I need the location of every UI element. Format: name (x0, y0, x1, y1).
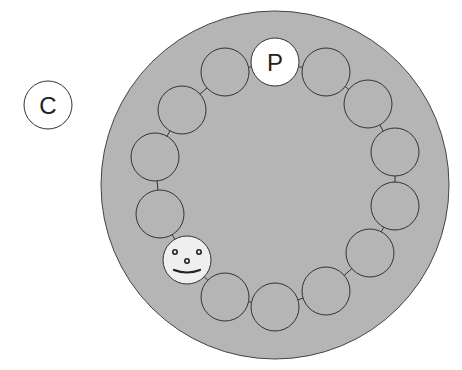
seat-circle (302, 48, 350, 96)
seat-circle (346, 229, 394, 277)
seat-circle (302, 267, 350, 315)
seat-circle (163, 236, 211, 284)
seat-empty (371, 128, 419, 176)
seat-smiley (163, 236, 211, 284)
seat-circle (344, 80, 392, 128)
seat-empty (344, 80, 392, 128)
seat-circle (158, 86, 206, 134)
seat-empty (346, 229, 394, 277)
seat-circle (371, 182, 419, 230)
seating-diagram: C P (0, 0, 462, 370)
outside-node: C (24, 81, 72, 129)
seat-empty (201, 48, 249, 96)
seat-empty (302, 267, 350, 315)
seat-empty (371, 182, 419, 230)
seat-empty (251, 283, 299, 331)
seat-p: P (251, 38, 299, 86)
seat-circle (201, 273, 249, 321)
seat-label: P (267, 49, 283, 76)
outside-node-label: C (39, 92, 56, 119)
seat-empty (302, 48, 350, 96)
seat-empty (136, 190, 184, 238)
seat-empty (201, 273, 249, 321)
seat-circle (201, 48, 249, 96)
seat-circle (131, 133, 179, 181)
seat-circle (371, 128, 419, 176)
seat-circle (251, 283, 299, 331)
seat-circle (136, 190, 184, 238)
seat-empty (131, 133, 179, 181)
seat-empty (158, 86, 206, 134)
